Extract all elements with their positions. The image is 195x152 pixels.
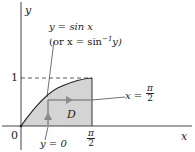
origin-point	[20, 125, 23, 128]
x-tick-pi-over-2: π 2	[87, 129, 95, 148]
origin-label: 0	[11, 129, 18, 142]
leader-right-bound	[92, 97, 125, 100]
region-d	[21, 78, 92, 126]
diagram-canvas	[0, 0, 195, 152]
bottom-bound-label: y = 0	[40, 138, 67, 149]
y-tick-1: 1	[11, 71, 18, 84]
right-bound-fraction: π 2	[146, 84, 154, 103]
y-axis-label: y	[25, 4, 31, 17]
x-axis-label: x	[181, 130, 187, 143]
leader-curve	[47, 41, 54, 97]
region-label: D	[67, 108, 76, 121]
right-bound-label: x =	[125, 90, 142, 101]
curve-alt-label: (or x = sin−1y)	[49, 35, 122, 47]
curve-label: y = sin x	[49, 21, 93, 32]
